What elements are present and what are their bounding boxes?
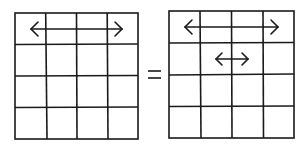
grid-equation-diagram bbox=[0, 0, 308, 145]
equals-sign bbox=[148, 71, 161, 78]
